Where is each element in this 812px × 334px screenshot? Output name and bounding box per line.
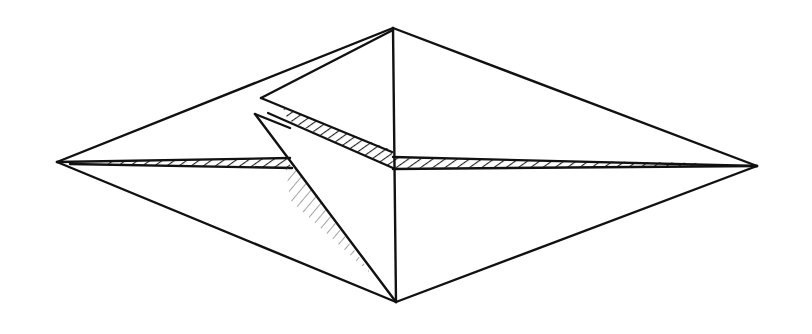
edge-vertical-axis — [393, 28, 396, 302]
diamond-sketch-illustration — [0, 0, 812, 334]
edge-bottom-left — [57, 162, 396, 302]
light-hatch-shadow — [286, 168, 372, 275]
edge-right-bottom — [396, 166, 757, 302]
edge-upper-flap-outer — [261, 30, 393, 98]
edge-top-right — [393, 28, 757, 166]
hatched-midline-band-left — [57, 158, 292, 168]
sketch-canvas — [0, 0, 812, 334]
hatched-midline-band-right — [393, 157, 757, 169]
